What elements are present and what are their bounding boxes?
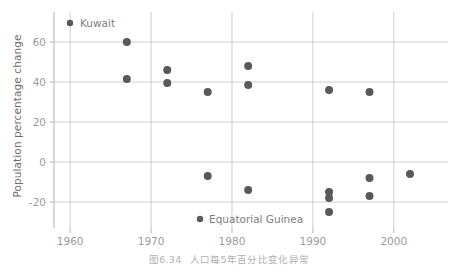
point-annotations: KuwaitEquatorial Guinea — [67, 17, 303, 225]
data-point — [204, 172, 212, 180]
data-point — [244, 186, 252, 194]
figure-caption: 图6.34人口每5年百分比变化异常 — [0, 252, 458, 266]
annotation-label: Equatorial Guinea — [209, 213, 303, 225]
data-point — [406, 170, 414, 178]
data-point — [123, 38, 131, 46]
annotation-label: Kuwait — [80, 17, 115, 29]
x-tick-label: 1990 — [300, 235, 327, 247]
x-tick-label: 2000 — [380, 235, 407, 247]
y-tick-label: 40 — [33, 76, 46, 88]
annotation-marker-icon — [67, 20, 73, 26]
data-point — [325, 194, 333, 202]
figure-container: Population percentage change -2002040601… — [0, 0, 458, 275]
y-tick-label: 60 — [33, 36, 46, 48]
annotation-marker-icon — [197, 216, 203, 222]
data-point — [366, 174, 374, 182]
scatter-plot: -20020406019601970198019902000 KuwaitEqu… — [0, 0, 458, 275]
x-tick-label: 1970 — [138, 235, 165, 247]
data-point — [244, 62, 252, 70]
data-point — [366, 88, 374, 96]
data-point — [204, 88, 212, 96]
grid-lines — [54, 12, 448, 228]
data-point — [325, 208, 333, 216]
data-point — [163, 66, 171, 74]
data-point — [325, 86, 333, 94]
data-point — [366, 192, 374, 200]
data-point — [163, 79, 171, 87]
data-points — [123, 38, 414, 216]
y-tick-label: -20 — [29, 196, 46, 208]
data-point — [244, 81, 252, 89]
x-tick-label: 1960 — [57, 235, 84, 247]
y-tick-label: 0 — [39, 156, 46, 168]
x-tick-label: 1980 — [219, 235, 246, 247]
caption-number: 图6.34 — [149, 254, 182, 265]
caption-text: 人口每5年百分比变化异常 — [190, 254, 310, 265]
axis-ticks — [50, 42, 394, 233]
data-point — [123, 75, 131, 83]
y-tick-label: 20 — [33, 116, 46, 128]
